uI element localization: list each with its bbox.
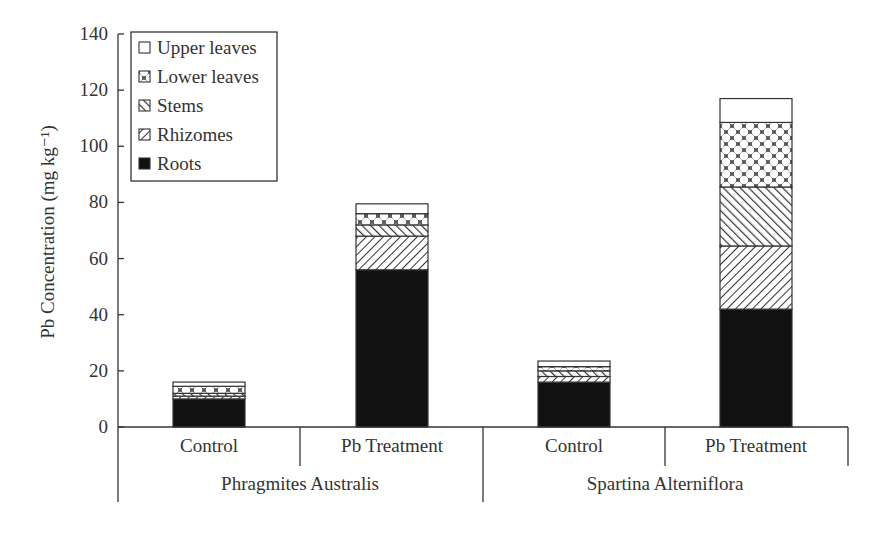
bar-segment-rhizomes <box>720 246 792 309</box>
legend-swatch <box>139 129 150 140</box>
x-axis-labels: ControlPb TreatmentControlPb TreatmentPh… <box>180 435 808 494</box>
legend-swatch <box>139 71 150 82</box>
bar-segment-upper-leaves <box>538 361 610 367</box>
bar-segment-roots <box>720 309 792 427</box>
y-tick-label: 100 <box>80 135 109 156</box>
y-axis-label: Pb Concentration (mg kg⁻¹) <box>37 125 59 339</box>
y-tick-label: 120 <box>80 79 109 100</box>
bar-segment-rhizomes <box>538 376 610 382</box>
bar-stack <box>173 382 245 427</box>
y-tick-label: 60 <box>89 248 108 269</box>
bar-segment-lower-leaves <box>356 214 428 225</box>
legend-label: Lower leaves <box>157 66 259 87</box>
legend-label: Stems <box>157 95 203 116</box>
y-tick-label: 20 <box>89 360 108 381</box>
legend-swatch <box>139 100 150 111</box>
bar-segment-stems <box>356 225 428 236</box>
bar-segment-stems <box>720 187 792 246</box>
category-label: Pb Treatment <box>341 435 444 456</box>
bar-stack <box>538 361 610 427</box>
category-label: Pb Treatment <box>705 435 808 456</box>
bar-segment-upper-leaves <box>720 99 792 123</box>
bar-segment-lower-leaves <box>538 367 610 371</box>
y-axis: 020406080100120140 <box>80 23 125 437</box>
y-tick-label: 40 <box>89 304 108 325</box>
stacked-bar-chart: Pb Concentration (mg kg⁻¹) 0204060801001… <box>0 0 887 534</box>
bar-segment-rhizomes <box>356 236 428 270</box>
y-tick-label: 0 <box>99 416 109 437</box>
legend-swatch <box>139 158 150 169</box>
bar-segment-roots <box>538 382 610 427</box>
legend: Upper leavesLower leavesStemsRhizomesRoo… <box>131 32 277 181</box>
group-label: Spartina Alterniflora <box>587 473 744 494</box>
legend-label: Upper leaves <box>157 37 257 58</box>
y-tick-label: 140 <box>80 23 109 44</box>
bar-segment-roots <box>173 399 245 427</box>
category-label: Control <box>180 435 238 456</box>
legend-label: Rhizomes <box>157 124 233 145</box>
bar-segment-roots <box>356 270 428 427</box>
bar-segment-upper-leaves <box>173 382 245 386</box>
y-tick-label: 80 <box>89 191 108 212</box>
legend-swatch <box>139 42 150 53</box>
bar-segment-upper-leaves <box>356 204 428 214</box>
bar-stack <box>720 99 792 427</box>
bar-stack <box>356 204 428 427</box>
group-label: Phragmites Australis <box>221 473 379 494</box>
bar-segment-lower-leaves <box>173 386 245 393</box>
bar-segment-lower-leaves <box>720 122 792 187</box>
category-label: Control <box>545 435 603 456</box>
bar-segment-stems <box>538 371 610 377</box>
legend-label: Roots <box>157 153 201 174</box>
